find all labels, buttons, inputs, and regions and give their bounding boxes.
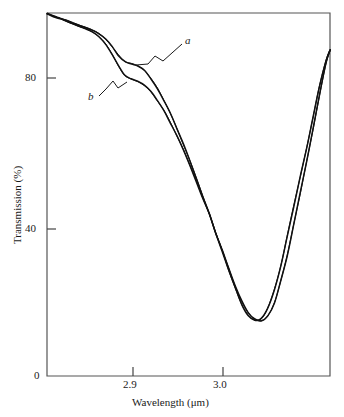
y-tick-label-0: 0 xyxy=(34,369,40,381)
x-tick-label-3-0: 3.0 xyxy=(213,378,227,390)
curve-a xyxy=(47,13,330,320)
curve-label-a: a xyxy=(185,34,191,46)
data-curves xyxy=(47,13,330,321)
frame-outline xyxy=(47,13,330,376)
y-axis-title: Transmission (%) xyxy=(11,150,23,260)
y-tick-label-40: 40 xyxy=(25,222,36,234)
leader-line-a xyxy=(136,44,182,65)
y-tick-label-80: 80 xyxy=(25,71,36,83)
leader-line-b xyxy=(99,81,127,96)
curve-b xyxy=(47,13,330,320)
x-axis-title: Wavelength (μm) xyxy=(132,396,209,408)
plot-frame xyxy=(47,13,330,376)
x-tick-marks xyxy=(133,367,223,376)
figure-panel: 80 40 0 2.9 3.0 Transmission (%) Wavelen… xyxy=(0,0,344,417)
curve-label-b: b xyxy=(88,90,94,102)
curve-b xyxy=(47,14,330,321)
x-tick-label-2-9: 2.9 xyxy=(123,378,137,390)
transmission-spectrum-plot xyxy=(0,0,344,417)
y-tick-marks xyxy=(47,78,56,229)
curve-a xyxy=(47,14,330,321)
